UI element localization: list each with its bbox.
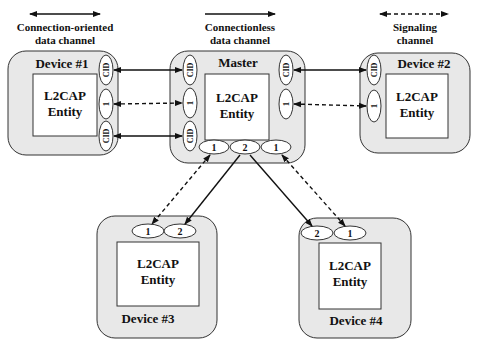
- device-1-title: Device #1: [35, 56, 88, 71]
- svg-text:Entity: Entity: [220, 106, 255, 121]
- svg-text:L2CAP: L2CAP: [216, 90, 258, 105]
- svg-text:L2CAP: L2CAP: [137, 256, 179, 271]
- svg-text:2: 2: [243, 142, 248, 153]
- svg-text:Entity: Entity: [333, 274, 368, 289]
- svg-text:1: 1: [185, 100, 195, 105]
- device-4-title: Device #4: [329, 313, 383, 328]
- svg-text:CID: CID: [102, 62, 111, 77]
- svg-text:2: 2: [178, 226, 183, 237]
- device-2: Device #2 L2CAP Entity CID 1: [360, 53, 470, 153]
- device-3: 1 2 L2CAP Entity Device #3: [97, 216, 217, 338]
- device-4: 2 1 L2CAP Entity Device #4: [299, 218, 411, 338]
- device-2-title: Device #2: [397, 56, 450, 71]
- legend-connection-oriented-line2: data channel: [35, 34, 95, 46]
- svg-text:1: 1: [101, 101, 111, 106]
- legend-signaling-line1: Signaling: [393, 21, 438, 33]
- legend-connectionless-line2: data channel: [210, 34, 270, 46]
- svg-text:L2CAP: L2CAP: [44, 88, 86, 103]
- svg-text:CID: CID: [102, 128, 111, 143]
- legend-signaling-line2: channel: [397, 34, 434, 46]
- svg-text:CID: CID: [370, 62, 379, 77]
- svg-text:1: 1: [369, 103, 379, 108]
- svg-text:CID: CID: [186, 128, 195, 143]
- device-1: Device #1 L2CAP Entity CID 1 CID: [8, 51, 118, 155]
- svg-text:2: 2: [315, 228, 320, 239]
- svg-text:Entity: Entity: [48, 104, 83, 119]
- svg-text:1: 1: [348, 228, 353, 239]
- svg-text:L2CAP: L2CAP: [329, 258, 371, 273]
- legend: Connection-oriented data channel Connect…: [17, 14, 448, 46]
- legend-connectionless-line1: Connectionless: [205, 21, 276, 33]
- svg-text:Entity: Entity: [141, 272, 176, 287]
- l2cap-diagram: Connection-oriented data channel Connect…: [0, 0, 477, 346]
- svg-text:CID: CID: [282, 62, 291, 77]
- svg-text:Entity: Entity: [400, 105, 435, 120]
- master-device: Master L2CAP Entity CID 1 CID CID 1 1 2 …: [170, 51, 305, 163]
- svg-text:1: 1: [274, 142, 279, 153]
- svg-text:CID: CID: [186, 62, 195, 77]
- svg-text:1: 1: [212, 142, 217, 153]
- svg-text:1: 1: [146, 226, 151, 237]
- master-title: Master: [218, 55, 258, 70]
- device-3-title: Device #3: [121, 311, 175, 326]
- svg-text:1: 1: [281, 101, 291, 106]
- legend-connection-oriented-line1: Connection-oriented: [17, 21, 114, 33]
- svg-text:L2CAP: L2CAP: [396, 89, 438, 104]
